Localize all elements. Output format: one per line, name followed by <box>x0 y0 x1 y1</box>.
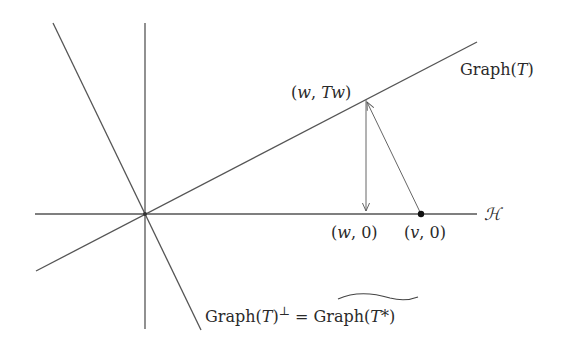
hilbert-space-label: ℋ <box>484 204 504 224</box>
w-tw-label: (w, Tw) <box>291 83 351 102</box>
v0-point <box>418 211 424 217</box>
v-to-graph-arrow <box>367 102 420 212</box>
origin-point <box>143 212 147 216</box>
tilde-accent <box>338 294 418 300</box>
graph-t-label: Graph(T) <box>460 60 534 79</box>
graph-diagram: Graph(T) (w, Tw) (w, 0) (v, 0) ℋ Graph(T… <box>0 0 576 348</box>
graph-t-perp-label: Graph(T)⊥ = Graph(T*) <box>205 304 395 326</box>
graph-t-perp-line <box>53 23 201 330</box>
v0-label: (v, 0) <box>404 223 446 242</box>
w0-label: (w, 0) <box>331 223 378 242</box>
